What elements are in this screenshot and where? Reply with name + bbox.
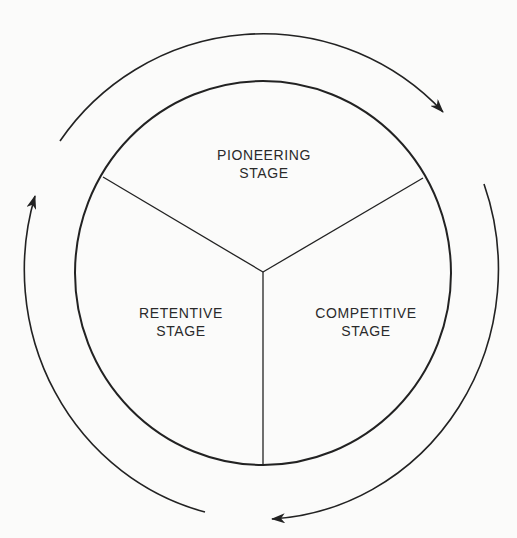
diagram-graphics — [0, 0, 517, 538]
label-pioneering-line1: PIONEERING — [217, 146, 311, 164]
label-retentive-line2: STAGE — [139, 322, 223, 340]
label-retentive-stage: RETENTIVE STAGE — [139, 304, 223, 340]
divider-left — [103, 177, 263, 272]
label-competitive-line2: STAGE — [315, 322, 417, 340]
divider-right — [263, 178, 423, 272]
label-pioneering-line2: STAGE — [217, 164, 311, 182]
arrow-retentive-to-pioneering — [24, 196, 205, 512]
stage-cycle-diagram: PIONEERING STAGE RETENTIVE STAGE COMPETI… — [0, 0, 517, 538]
label-competitive-stage: COMPETITIVE STAGE — [315, 304, 417, 340]
label-competitive-line1: COMPETITIVE — [315, 304, 417, 322]
label-retentive-line1: RETENTIVE — [139, 304, 223, 322]
arrow-pioneering-to-competitive — [60, 34, 443, 141]
label-pioneering-stage: PIONEERING STAGE — [217, 146, 311, 182]
arrow-competitive-to-retentive — [272, 184, 498, 519]
